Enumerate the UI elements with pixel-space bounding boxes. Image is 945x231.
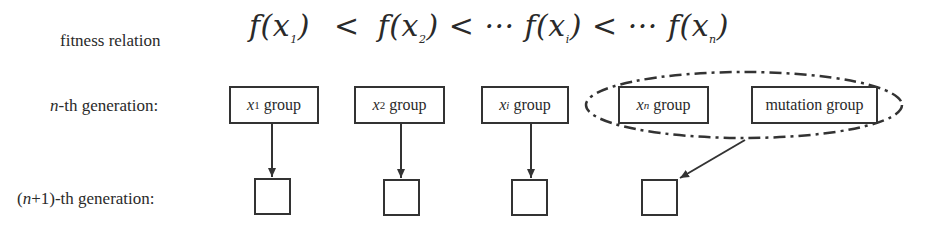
group-text: mutation group [765,96,863,114]
group-text: group [509,96,550,114]
x2-group-box: x2 group [354,86,445,124]
group-text: group [260,96,301,114]
next-gen-slot-n [641,179,678,216]
next-gen-slot-i [511,179,548,216]
mutation-group-box: mutation group [751,86,878,124]
group-var: x [637,96,644,114]
next-gen-slot-2 [383,179,420,216]
next-gen-slot-1 [254,178,291,215]
arrow-n [680,140,745,178]
group-text: group [385,96,426,114]
xn-group-box: xn group [618,86,709,124]
group-var: x [373,96,380,114]
group-var: x [499,96,506,114]
group-text: group [649,96,690,114]
x1-group-box: x1 group [229,86,319,124]
xi-group-box: xi group [481,86,569,124]
group-var: x [247,96,254,114]
